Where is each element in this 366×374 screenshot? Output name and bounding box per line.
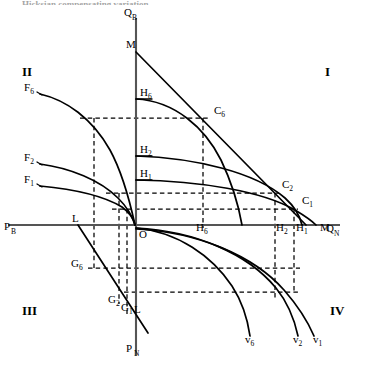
label-v6: v6 xyxy=(245,333,255,348)
quadrant-3-ray xyxy=(78,225,148,333)
quadrant-1-curves xyxy=(136,52,316,225)
valuation-curve-v6 xyxy=(136,228,250,336)
label-h2-base: H2 xyxy=(276,221,288,236)
axis-label-qb: Q xyxy=(124,6,132,18)
quadrant-labels: IIIIIIIV xyxy=(22,64,345,318)
axis-label-pb-sub: B xyxy=(11,227,16,236)
label-m-vertical: M xyxy=(126,38,136,50)
quadrant-2-label: II xyxy=(22,64,32,79)
label-v2: v2 xyxy=(293,333,303,348)
indifference-curve-h2 xyxy=(136,156,302,225)
valuation-curve-v2 xyxy=(136,228,298,336)
valuation-curve-v1 xyxy=(136,229,314,336)
label-f1: F1 xyxy=(24,173,34,188)
label-l-lower: L xyxy=(134,303,141,315)
axis-label-qn-sub: N xyxy=(334,229,340,238)
label-origin: O xyxy=(139,228,147,240)
quadrant-4-label: IV xyxy=(330,303,345,318)
label-f2: F2 xyxy=(24,151,34,166)
quadrant-3-label: III xyxy=(22,303,37,318)
label-h6-base: H6 xyxy=(196,221,208,236)
axis-label-pn-sub: N xyxy=(134,349,140,358)
price-ray-ll xyxy=(78,225,148,333)
label-c6: C6 xyxy=(214,104,225,119)
label-leader-ticks xyxy=(37,92,42,187)
quadrant-4-curves xyxy=(136,228,314,336)
projection-lines xyxy=(80,118,300,314)
budget-line-mm xyxy=(136,52,306,225)
label-c1: C1 xyxy=(302,194,313,209)
quadrant-1-label: I xyxy=(325,64,330,79)
label-c2: C2 xyxy=(282,178,293,193)
axis-label-pb: P xyxy=(4,220,10,232)
label-m-horizontal: M xyxy=(320,221,330,233)
four-quadrant-diagram: Q B Q N P B P N O IIIIIIIV MMH6H2H1C6C2C… xyxy=(0,0,366,374)
axis-label-pn: P xyxy=(126,342,132,354)
label-l-upper: L xyxy=(72,212,79,224)
label-g6: G6 xyxy=(71,257,83,272)
label-h1-base: H1 xyxy=(296,221,308,236)
label-g2: G2 xyxy=(108,293,120,308)
axis-label-qb-sub: B xyxy=(132,13,137,22)
label-f6: F6 xyxy=(24,81,34,96)
label-v1: v1 xyxy=(313,333,323,348)
quadrant-2-curves xyxy=(40,94,135,225)
transformation-curve-f1 xyxy=(40,186,135,225)
